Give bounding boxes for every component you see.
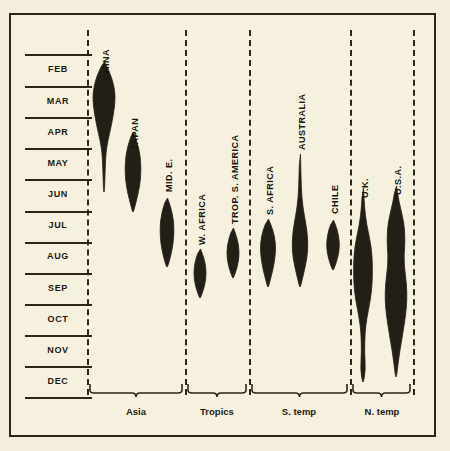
group-braces: [11, 15, 438, 439]
group-label-n-temp: N. temp: [342, 406, 422, 417]
brace-n-temp: [353, 384, 410, 397]
brace-tropics: [188, 384, 246, 397]
brace-s-temp: [252, 384, 347, 397]
chart-page: FEBMARAPRMAYJUNJULAUGSEPOCTNOVDEC CHINAJ…: [0, 0, 450, 451]
group-label-tropics: Tropics: [177, 406, 257, 417]
group-label-s-temp: S. temp: [259, 406, 339, 417]
group-label-asia: Asia: [96, 406, 176, 417]
chart-frame: FEBMARAPRMAYJUNJULAUGSEPOCTNOVDEC CHINAJ…: [9, 13, 436, 437]
brace-asia: [90, 384, 182, 397]
